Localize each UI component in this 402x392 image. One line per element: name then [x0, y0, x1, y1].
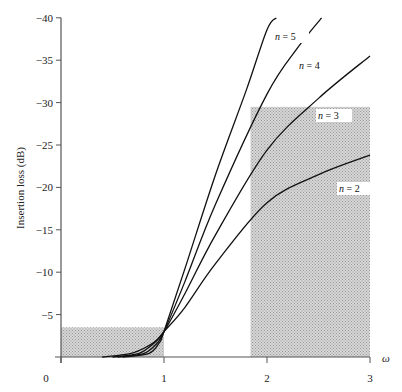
y-tick-label: −20 [36, 181, 54, 193]
stopband-region [251, 107, 370, 357]
y-tick-label: −35 [36, 54, 54, 66]
y-tick-label: −15 [36, 224, 54, 236]
curve-label: n = 2 [339, 183, 360, 194]
insertion-loss-chart: −5−10−15−20−25−30−35−400123 n = 5n = 4n … [0, 0, 402, 392]
y-tick-label: −5 [41, 309, 53, 321]
x-axis-title: ω [382, 352, 390, 364]
curve-label: n = 4 [299, 60, 320, 71]
y-axis-title: Insertion loss (dB) [14, 147, 27, 229]
x-tick-label: 3 [367, 372, 373, 384]
y-tick-label: −30 [36, 97, 54, 109]
shaded-regions [61, 107, 370, 357]
x-tick-label: 0 [43, 372, 49, 384]
y-tick-label: −10 [36, 266, 54, 278]
x-tick-label: 2 [264, 372, 270, 384]
y-tick-label: −40 [36, 12, 54, 24]
y-tick-label: −25 [36, 139, 54, 151]
curve-label: n = 3 [318, 110, 339, 121]
x-tick-label: 1 [161, 372, 167, 384]
passband-region [61, 327, 164, 357]
curve-label: n = 5 [275, 31, 296, 42]
